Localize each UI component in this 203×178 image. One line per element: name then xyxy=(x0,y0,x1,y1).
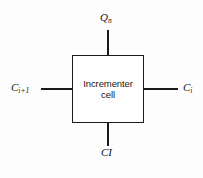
wire-right-ci xyxy=(143,88,178,90)
incrementer-cell-diagram: Incrementer cell Qn Ci+1 Ci CI xyxy=(0,0,203,178)
port-label-ci-plus-1: Ci+1 xyxy=(11,81,29,93)
port-label-cl-base: CI xyxy=(101,146,112,158)
wire-top-qn xyxy=(107,30,109,56)
port-label-cl: CI xyxy=(101,146,112,158)
port-label-qn-base: Q xyxy=(100,11,108,23)
wire-bottom-cl xyxy=(107,122,109,146)
port-label-ci-plus-1-sub: i+1 xyxy=(18,86,29,95)
port-label-ci: Ci xyxy=(183,81,192,93)
incrementer-cell-block: Incrementer cell xyxy=(72,55,144,123)
incrementer-cell-block-label: Incrementer cell xyxy=(83,78,133,101)
port-label-qn: Qn xyxy=(100,11,112,23)
wire-left-ci1 xyxy=(41,88,73,90)
port-label-ci-sub: i xyxy=(190,86,192,95)
port-label-qn-sub: n xyxy=(108,16,112,25)
